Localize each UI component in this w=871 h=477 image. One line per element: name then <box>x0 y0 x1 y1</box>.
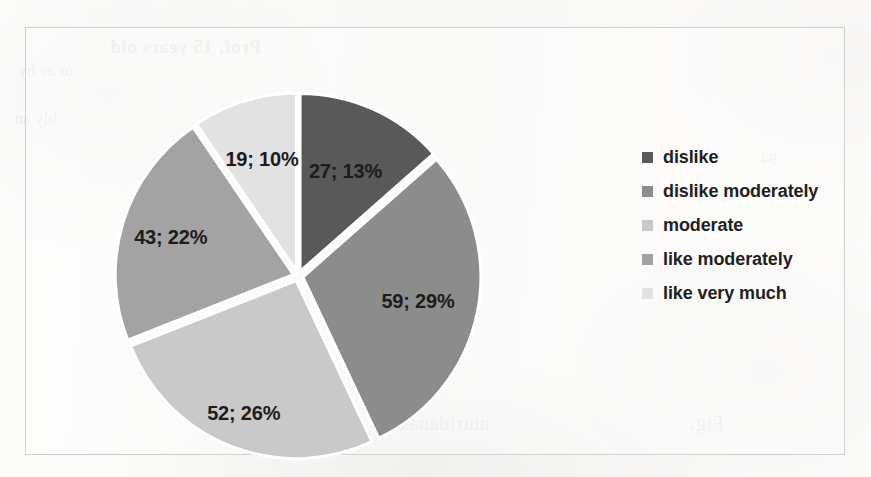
chart-frame: 27; 13%59; 29%52; 26%43; 22%19; 10% disl… <box>25 27 845 455</box>
legend-item-label: dislike moderately <box>663 181 818 202</box>
legend-swatch-icon <box>642 220 653 231</box>
pie-chart-screenshot: Prof. 15 years old nutridanasm Fig. ot a… <box>0 0 871 477</box>
legend-item-like-moderately[interactable]: like moderately <box>642 242 857 276</box>
legend-item-moderate[interactable]: moderate <box>642 208 857 242</box>
pie-chart-svg <box>96 68 516 458</box>
chart-legend: dislikedislike moderately moderatelike m… <box>642 140 857 310</box>
legend-item-label: like very much <box>663 283 787 304</box>
legend-item-label: moderate <box>663 215 743 236</box>
legend-swatch-icon <box>642 152 653 163</box>
legend-swatch-icon <box>642 186 653 197</box>
legend-item-dislike-moderately[interactable]: dislike moderately <box>642 174 857 208</box>
legend-swatch-icon <box>642 288 653 299</box>
legend-item-label: dislike <box>663 147 718 168</box>
pie-plot-area: 27; 13%59; 29%52; 26%43; 22%19; 10% <box>96 68 516 458</box>
legend-item-label: like moderately <box>663 249 793 270</box>
legend-item-dislike[interactable]: dislike <box>642 140 857 174</box>
legend-item-like-very-much[interactable]: like very much <box>642 276 857 310</box>
legend-swatch-icon <box>642 254 653 265</box>
pie-slice-group <box>115 93 481 458</box>
